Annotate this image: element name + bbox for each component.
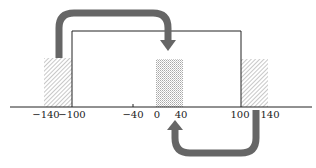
center-dotted-region (156, 59, 183, 107)
right-hatched-region (241, 59, 268, 107)
tick-label-neg40: −40 (122, 109, 143, 120)
tick-label-neg100: −100 (58, 109, 85, 120)
tick-label-neg140: −140 (32, 109, 59, 120)
upper-arrowhead-icon (160, 40, 176, 51)
tick-label-140: 140 (260, 109, 279, 120)
tick-label-100: 100 (230, 109, 249, 120)
left-hatched-region (44, 58, 72, 107)
lower-arrowhead-icon (167, 120, 183, 130)
tick-label-0: 0 (154, 109, 160, 120)
upper-arrow-icon (59, 13, 168, 58)
shift-diagram: −140 −100 −40 0 40 100 140 (0, 0, 316, 168)
tick-label-40: 40 (175, 109, 188, 120)
